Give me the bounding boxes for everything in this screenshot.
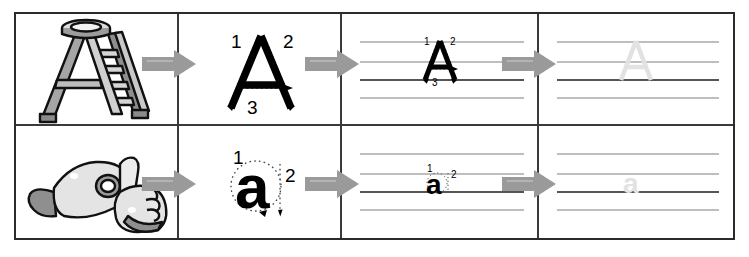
trace-letter-uppercase-a [621,41,651,80]
sign-language-hands-illustration-icon [16,126,177,238]
model-letter-lowercase-a: a 1 2 [179,126,340,238]
ruled-lines-guided-lowercase: a 1 2 [342,126,537,238]
guided-practice-cell-lowercase[interactable]: a 1 2 [342,126,539,238]
stroke-number-1: 1 [427,163,433,174]
trace-glyph-lowercase-a: a [623,168,639,199]
ruled-lines-guided-uppercase: 1 2 3 [342,14,537,124]
worksheet-row-uppercase: 1 2 3 [16,14,733,126]
stroke-number-2: 2 [283,31,294,52]
guided-practice-cell-uppercase[interactable]: 1 2 3 [342,14,539,124]
worksheet-table: 1 2 3 [14,12,735,240]
model-letter-cell-uppercase[interactable]: 1 2 3 [179,14,342,124]
step-ladder-illustration-icon [16,14,177,124]
stroke-number-3: 3 [247,97,258,118]
stroke-number-3: 3 [432,77,438,88]
trace-practice-cell-lowercase[interactable]: a [539,126,733,238]
model-letter-uppercase-a: 1 2 3 [179,14,340,124]
picture-cell-lowercase[interactable] [16,126,179,238]
ruled-lines-trace-uppercase [539,14,733,124]
stroke-number-2: 2 [450,36,456,47]
stroke-number-2: 2 [451,169,457,180]
trace-practice-cell-uppercase[interactable] [539,14,733,124]
model-letter-cell-lowercase[interactable]: a 1 2 [179,126,342,238]
stroke-number-1: 1 [233,147,244,168]
stroke-number-1: 1 [231,31,242,52]
worksheet-row-lowercase: a 1 2 [16,126,733,238]
ruled-lines-trace-lowercase: a [539,126,733,238]
stroke-number-1: 1 [424,36,430,47]
stroke-number-2: 2 [285,165,296,186]
picture-cell-uppercase[interactable] [16,14,179,124]
